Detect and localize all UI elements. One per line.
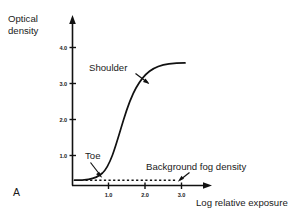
shoulder-annotation-label: Shoulder <box>89 62 128 73</box>
background-fog-density-annotation-label: Background fog density <box>146 161 246 172</box>
x-tick-label-1: 1.0 <box>105 192 112 198</box>
y-axis-title-line1: Optical <box>8 13 38 24</box>
y-tick-label-4: 4.0 <box>60 45 67 51</box>
y-axis-title-line2: density <box>8 25 39 36</box>
background-fog-density-leader-arrowhead <box>178 176 184 182</box>
characteristic-curve-figure: Optical density 4.0 3.0 2.0 1.0 1.0 2.0 … <box>0 0 299 223</box>
y-axis-arrowhead <box>69 15 76 24</box>
x-axis-arrowhead <box>203 182 212 189</box>
panel-label: A <box>13 186 20 198</box>
x-tick-label-2: 2.0 <box>141 192 148 198</box>
chart-canvas: Optical density 4.0 3.0 2.0 1.0 1.0 2.0 … <box>0 0 299 223</box>
x-tick-label-3: 3.0 <box>178 192 185 198</box>
y-tick-label-1: 1.0 <box>60 153 67 159</box>
toe-annotation-label: Toe <box>85 150 100 161</box>
x-axis-title: Log relative exposure <box>196 197 288 208</box>
y-tick-label-2: 2.0 <box>60 117 67 123</box>
y-tick-label-3: 3.0 <box>60 81 67 87</box>
